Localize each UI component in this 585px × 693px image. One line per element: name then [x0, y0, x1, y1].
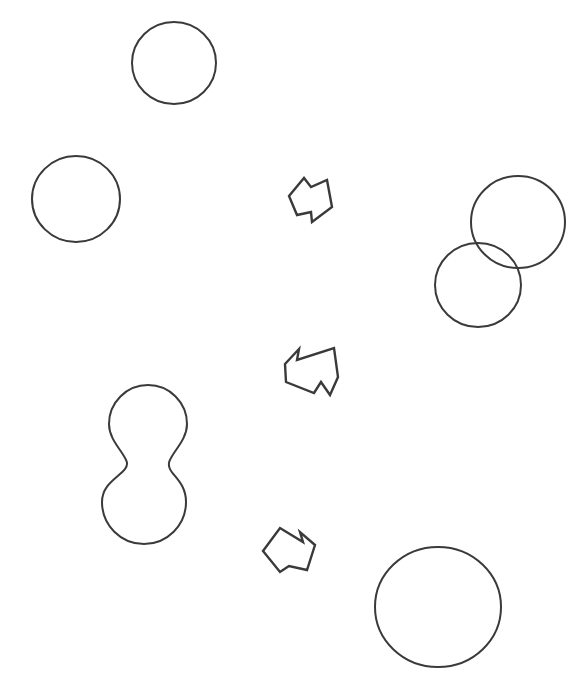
circle-bottom-right-large [375, 547, 501, 667]
circle-right-small [435, 243, 521, 327]
arrow-bottom-icon [263, 528, 315, 572]
figure-canvas [0, 0, 585, 693]
peanut-blob-left [102, 385, 187, 544]
circle-right-large [471, 176, 565, 268]
arrow-top-icon [289, 178, 332, 222]
circle-left-upper [32, 156, 120, 242]
arrow-middle-icon [285, 348, 338, 395]
circle-top-center [132, 22, 216, 104]
shape-drawing-svg [0, 0, 585, 693]
